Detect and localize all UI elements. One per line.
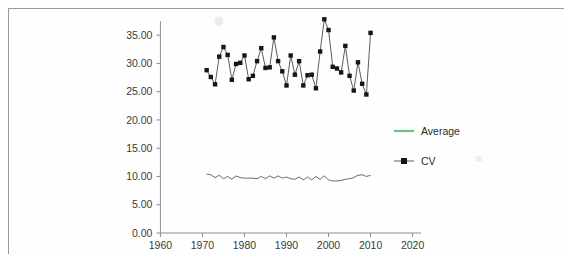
figure-frame: 35.0030.0025.0020.0015.0010.005.000.00 1… xyxy=(8,8,564,254)
x-tick-label: 1990 xyxy=(275,239,299,251)
cv-data-point xyxy=(289,53,293,57)
cv-data-point xyxy=(221,45,225,49)
cv-data-point xyxy=(259,46,263,50)
paper-artifact xyxy=(476,156,482,162)
cv-data-point xyxy=(267,65,271,69)
cv-data-point xyxy=(272,35,276,39)
cv-data-point xyxy=(322,17,326,21)
x-tick-label: 2000 xyxy=(317,239,341,251)
cv-data-point xyxy=(305,73,309,77)
y-tick-label: 15.00 xyxy=(126,142,152,154)
cv-data-point xyxy=(360,82,364,86)
cv-data-point xyxy=(310,73,314,77)
cv-data-point xyxy=(368,31,372,35)
cv-data-point xyxy=(343,44,347,48)
y-tick-label: 30.00 xyxy=(126,57,152,69)
legend-label-average: Average xyxy=(421,125,460,137)
cv-data-point xyxy=(347,74,351,78)
x-tick-label: 1960 xyxy=(149,239,173,251)
cv-data-point xyxy=(335,66,339,70)
legend-label-cv: CV xyxy=(421,155,436,167)
cv-data-point xyxy=(276,59,280,63)
cv-data-point xyxy=(251,74,255,78)
cv-data-point xyxy=(326,28,330,32)
y-tick-label: 25.00 xyxy=(126,85,152,97)
cv-data-point xyxy=(234,62,238,66)
cv-data-point xyxy=(314,86,318,90)
cv-data-point xyxy=(217,54,221,58)
cv-data-point xyxy=(301,83,305,87)
cv-data-point xyxy=(293,73,297,77)
cv-data-point xyxy=(242,53,246,57)
cv-data-point xyxy=(364,92,368,96)
cv-data-point xyxy=(263,66,267,70)
cv-data-point xyxy=(331,65,335,69)
cv-data-point xyxy=(204,68,208,72)
cv-data-point xyxy=(238,61,242,65)
x-tick-label: 2010 xyxy=(359,239,383,251)
cv-data-point xyxy=(318,49,322,53)
x-tick-label: 1970 xyxy=(191,239,215,251)
y-tick-label: 0.00 xyxy=(132,227,153,239)
y-tick-label: 20.00 xyxy=(126,114,152,126)
cv-data-point xyxy=(356,60,360,64)
cv-data-point xyxy=(209,75,213,79)
cv-data-point xyxy=(230,78,234,82)
cv-data-point xyxy=(297,59,301,63)
cv-data-point xyxy=(255,59,259,63)
y-tick-label: 10.00 xyxy=(126,170,152,182)
cv-data-point xyxy=(280,69,284,73)
cv-data-point xyxy=(225,53,229,57)
cv-data-point xyxy=(213,82,217,86)
cv-data-point xyxy=(246,77,250,81)
cv-data-point xyxy=(352,88,356,92)
y-tick-label: 35.00 xyxy=(126,29,152,41)
x-tick-label: 2020 xyxy=(401,239,425,251)
plot-background xyxy=(9,9,565,255)
legend-cv-marker-swatch xyxy=(401,158,407,164)
cv-data-point xyxy=(339,70,343,74)
paper-artifact xyxy=(215,17,224,26)
cv-data-point xyxy=(284,83,288,87)
chart-canvas: 35.0030.0025.0020.0015.0010.005.000.00 1… xyxy=(9,9,565,255)
y-tick-label: 5.00 xyxy=(132,198,153,210)
x-tick-label: 1980 xyxy=(233,239,257,251)
